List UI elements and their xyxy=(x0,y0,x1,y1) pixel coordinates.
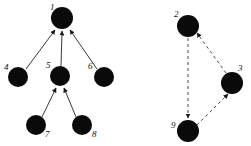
node-6[interactable] xyxy=(94,67,114,87)
node-7[interactable] xyxy=(26,115,46,135)
left-graph-nodes xyxy=(8,7,114,135)
node-3[interactable] xyxy=(221,72,243,94)
edge-3-to-2 xyxy=(197,33,226,73)
node-label-9: 9 xyxy=(171,120,176,130)
node-label-5: 5 xyxy=(46,60,51,70)
node-label-3: 3 xyxy=(237,63,243,73)
node-label-1: 1 xyxy=(50,2,55,12)
node-2[interactable] xyxy=(177,15,199,37)
graph-canvas: 1 4 5 6 7 8 2 3 9 xyxy=(0,0,251,146)
edge-7-to-5 xyxy=(42,88,56,117)
right-graph-nodes xyxy=(177,15,243,142)
node-4[interactable] xyxy=(8,67,28,87)
edge-8-to-5 xyxy=(64,88,76,117)
edge-5-to-1 xyxy=(61,31,62,66)
edge-9-to-3 xyxy=(197,94,228,125)
node-label-7: 7 xyxy=(45,129,50,139)
node-label-4: 4 xyxy=(4,62,9,72)
node-label-6: 6 xyxy=(88,61,93,71)
node-9[interactable] xyxy=(177,120,199,142)
node-label-2: 2 xyxy=(174,9,179,19)
node-8[interactable] xyxy=(72,115,92,135)
node-label-8: 8 xyxy=(92,129,97,139)
edge-6-to-1 xyxy=(70,30,97,69)
graph-figure: 1 4 5 6 7 8 2 3 9 xyxy=(0,0,251,146)
edge-4-to-1 xyxy=(26,30,55,69)
node-5[interactable] xyxy=(50,66,70,86)
